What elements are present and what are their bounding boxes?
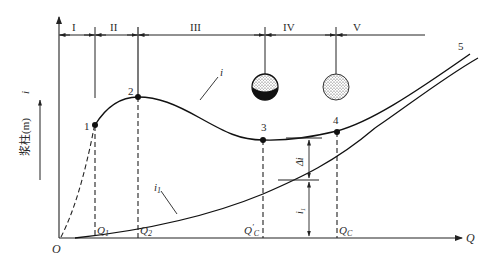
delta-i-label: Δi xyxy=(294,157,305,167)
region-label-V: V xyxy=(353,21,361,33)
region-label-III: III xyxy=(190,21,201,33)
y-axis-label-group: 浆柱(m) i xyxy=(18,91,40,180)
i1-dimension-label: i1 xyxy=(294,208,307,214)
region-label-I: I xyxy=(72,21,76,33)
point-4 xyxy=(334,129,340,135)
data-points xyxy=(92,94,340,143)
flow-label-Q2: Q2 xyxy=(140,224,152,238)
point-1 xyxy=(92,122,98,128)
startup-dashed-curve xyxy=(61,128,94,237)
sphere-4-full-suspension-icon xyxy=(323,74,349,100)
point-2 xyxy=(135,94,141,100)
leader-clear-water-label xyxy=(161,191,177,214)
y-label-text: 浆柱(m) xyxy=(18,118,32,156)
point-label-5: 5 xyxy=(458,40,464,52)
slurry-head-curve xyxy=(95,54,470,140)
flow-label-Qc: QC xyxy=(339,224,353,238)
point-3 xyxy=(260,137,266,143)
point-label-3: 3 xyxy=(261,121,267,133)
flow-label-Q1: Q1 xyxy=(97,224,109,238)
diagram-canvas: 浆柱(m) i O Q I II III IV V xyxy=(0,0,496,265)
leader-slurry-label xyxy=(200,77,218,100)
region-label-II: II xyxy=(110,21,118,33)
origin-label: O xyxy=(52,242,61,256)
curve-label-i: i xyxy=(220,66,223,78)
point-label-2: 2 xyxy=(128,85,134,97)
curve-5-outer xyxy=(375,58,478,128)
point-label-1: 1 xyxy=(84,120,90,132)
x-axis-label: Q xyxy=(466,231,475,245)
clear-water-curve xyxy=(75,128,375,238)
sphere-3-partial-deposit-icon xyxy=(252,74,278,100)
point-label-4: 4 xyxy=(333,114,339,126)
region-label-IV: IV xyxy=(283,21,295,33)
y-label-symbol: i xyxy=(19,91,31,94)
region-dimension-bar xyxy=(59,27,425,98)
flow-label-Qc-prime: Q′C xyxy=(244,223,260,238)
curve-label-i1: i1 xyxy=(154,181,161,195)
delta-i-dimension xyxy=(278,138,322,236)
dashed-guides xyxy=(95,97,337,238)
